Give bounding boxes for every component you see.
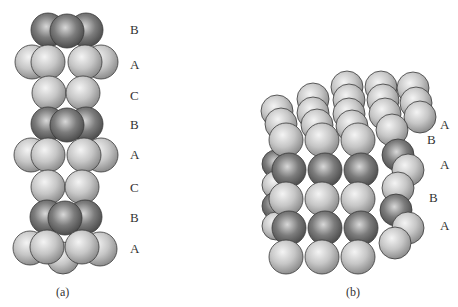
layer-label-b-5: A (440, 218, 449, 234)
caption-a: (a) (56, 285, 69, 300)
layer-label-a-2: A (130, 57, 139, 73)
layer-label-b-3: A (440, 157, 449, 173)
layer-label-a-3: C (130, 88, 139, 104)
layer-label-b-1: A (440, 117, 449, 133)
layer-label-a-7: B (130, 210, 139, 226)
layer-label-b-4: B (429, 190, 438, 206)
figure-a-column (13, 13, 118, 274)
layer-label-a-1: B (130, 22, 139, 38)
stacking-diagram (0, 0, 458, 307)
layer-label-a-5: A (130, 147, 139, 163)
layer-label-a-8: A (130, 241, 139, 257)
layer-label-a-4: B (130, 117, 139, 133)
layer-label-b-2: B (427, 132, 436, 148)
caption-b: (b) (346, 285, 360, 300)
figure-b-block (261, 71, 436, 274)
layer-label-a-6: C (130, 180, 139, 196)
